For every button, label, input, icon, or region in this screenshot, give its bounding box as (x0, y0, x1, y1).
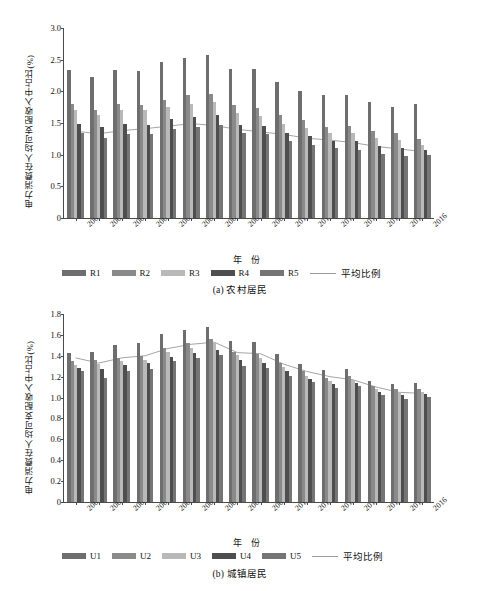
legend-label: R3 (189, 268, 200, 278)
legend-label: U5 (290, 551, 301, 561)
x-axis-tick: 2009 (270, 222, 276, 229)
bar-group (183, 314, 200, 502)
legend-item-average[interactable]: 平均比例 (310, 266, 381, 280)
legend-swatch (112, 270, 136, 276)
legend-item-u1[interactable]: U1 (62, 551, 101, 561)
bar (219, 355, 222, 502)
x-axis-tick: 2013 (362, 506, 368, 513)
bar (312, 382, 315, 502)
y-axis-tick-mark (61, 314, 64, 315)
x-axis-tick: 2004 (154, 222, 160, 229)
legend-swatch (162, 553, 186, 559)
x-axis-tick-mark (422, 502, 423, 505)
bar-group (391, 28, 408, 218)
bar-group (113, 314, 130, 502)
bar-group (345, 28, 362, 218)
bar-group (67, 314, 84, 502)
x-axis-tick-mark (261, 502, 262, 505)
bar-group (322, 28, 339, 218)
legend-label: R2 (140, 268, 151, 278)
bar-group (252, 314, 269, 502)
x-axis-tick-mark (122, 218, 123, 221)
bar-group (90, 28, 107, 218)
bar-group (414, 314, 431, 502)
legend-item-u5[interactable]: U5 (262, 551, 301, 561)
bar (127, 134, 130, 218)
x-axis-tick-mark (330, 218, 331, 221)
bar-group (137, 314, 154, 502)
legend-label: 平均比例 (343, 549, 383, 563)
legend-item-average[interactable]: 平均比例 (312, 549, 383, 563)
legend-swatch (211, 270, 235, 276)
caption-b: (b) 城镇居民 (0, 566, 480, 580)
x-axis-tick-mark (191, 502, 192, 505)
y-axis-label-a: 电力消费在人均可支配收入中占比(%) (24, 28, 36, 208)
x-axis-tick: 2014 (385, 222, 391, 229)
bar-group (229, 314, 246, 502)
x-axis-tick-mark (284, 502, 285, 505)
bar (289, 141, 292, 218)
legend-item-r5[interactable]: R5 (260, 268, 299, 278)
bar (335, 388, 338, 502)
y-axis-tick-mark (61, 398, 64, 399)
bar (104, 378, 107, 502)
bar (266, 134, 269, 218)
legend-swatch (112, 553, 136, 559)
x-axis-tick-mark (422, 218, 423, 221)
x-axis-tick-mark (214, 218, 215, 221)
bar (312, 145, 315, 218)
plot-area-b: 00.20.40.60.81.01.21.41.61.8200120022003… (63, 314, 434, 503)
y-axis-tick-mark (61, 155, 64, 156)
y-axis-tick-mark (61, 460, 64, 461)
x-axis-tick-mark (145, 218, 146, 221)
bar-group (160, 28, 177, 218)
bar-group (368, 314, 385, 502)
y-axis-tick-mark (61, 356, 64, 357)
y-axis-tick-mark (61, 218, 64, 219)
x-axis-tick-mark (307, 218, 308, 221)
bar (196, 127, 199, 218)
x-axis-tick: 2009 (270, 506, 276, 513)
legend-label: R1 (90, 268, 101, 278)
legend-item-u2[interactable]: U2 (112, 551, 151, 561)
bar (266, 368, 269, 502)
y-axis-tick-mark (61, 377, 64, 378)
y-axis-tick-mark (61, 123, 64, 124)
legend-swatch (62, 270, 86, 276)
y-axis-tick-mark (61, 60, 64, 61)
legend-label: U3 (190, 551, 201, 561)
x-axis-tick: 2014 (385, 506, 391, 513)
legend-item-r4[interactable]: R4 (211, 268, 250, 278)
legend-item-u4[interactable]: U4 (212, 551, 251, 561)
x-axis-tick: 2012 (339, 506, 345, 513)
x-axis-tick: 2003 (131, 506, 137, 513)
x-axis-tick: 2011 (316, 222, 322, 229)
legend-swatch (262, 553, 286, 559)
bar-group (368, 28, 385, 218)
x-axis-tick-mark (399, 502, 400, 505)
legend-item-r3[interactable]: R3 (161, 268, 200, 278)
legend-item-u3[interactable]: U3 (162, 551, 201, 561)
bar (81, 371, 84, 502)
x-axis-tick: 2015 (408, 506, 414, 513)
legend-item-r2[interactable]: R2 (112, 268, 151, 278)
legend-label: R4 (239, 268, 250, 278)
y-axis-tick-mark (61, 91, 64, 92)
x-axis-tick-mark (99, 218, 100, 221)
legend-item-r1[interactable]: R1 (62, 268, 101, 278)
legend-line-swatch (312, 556, 338, 557)
x-axis-tick-mark (168, 218, 169, 221)
x-axis-label-a: 年 份 (63, 253, 433, 266)
x-axis-tick: 2008 (246, 506, 252, 513)
bar-group (90, 314, 107, 502)
legend-label: U1 (90, 551, 101, 561)
x-axis-tick: 2002 (108, 222, 114, 229)
bar-group (298, 28, 315, 218)
figure-page: 电力消费在人均可支配收入中占比(%) 00.51.01.52.02.53.020… (0, 0, 480, 591)
bar (173, 361, 176, 502)
x-axis-tick: 2011 (316, 506, 322, 513)
x-axis-tick-mark (284, 218, 285, 221)
bar (404, 399, 407, 502)
y-axis-tick-mark (61, 28, 64, 29)
bar (358, 150, 361, 218)
